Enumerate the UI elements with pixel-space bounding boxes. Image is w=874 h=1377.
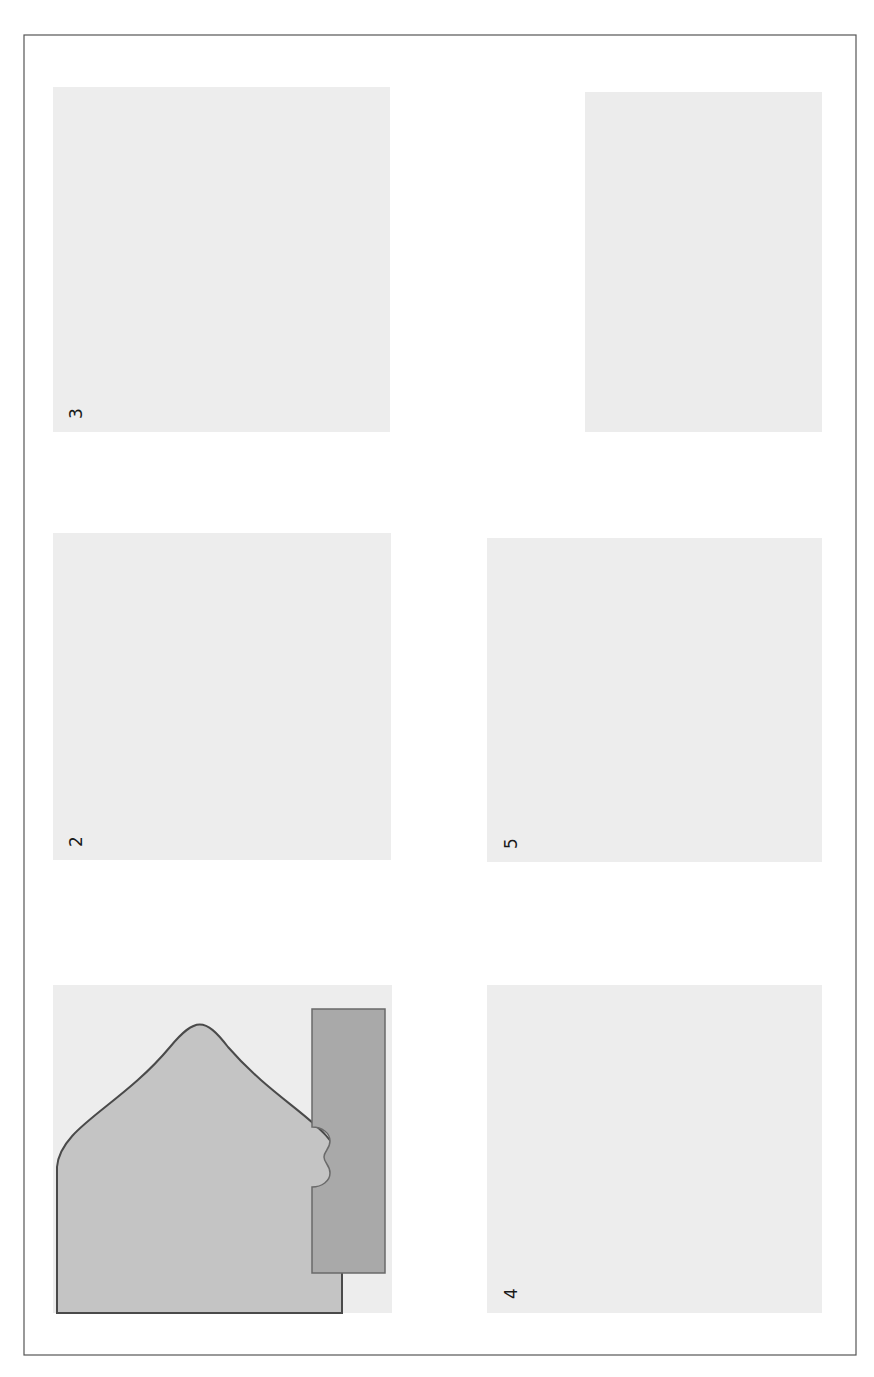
legend	[585, 92, 822, 432]
rotated-figure: 1 2 3 4 5	[24, 35, 856, 1355]
panel-5-background	[487, 538, 822, 862]
panel-2-number: 2	[66, 836, 86, 847]
panel-5: 5	[487, 538, 822, 862]
panel-4-background	[487, 985, 822, 1313]
panel-5-number: 5	[501, 838, 521, 849]
panel-3-background	[53, 87, 390, 432]
figure-canvas: 1 2 3 4 5	[0, 0, 874, 1377]
panel-4-number: 4	[501, 1288, 521, 1299]
panel-3-number: 3	[66, 408, 86, 419]
panel-4: 4	[487, 985, 822, 1313]
legend-background	[585, 92, 822, 432]
panel-2-background	[53, 533, 391, 860]
panel-2: 2	[53, 533, 391, 860]
panel-1: 1	[53, 985, 392, 1313]
panel-3: 3	[53, 87, 390, 432]
